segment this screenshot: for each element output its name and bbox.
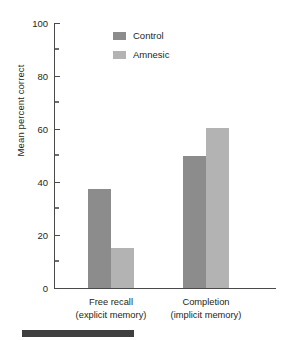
bar-amnesic-group-0 bbox=[111, 248, 134, 288]
y-tick-mark bbox=[55, 76, 60, 77]
y-tick-mark bbox=[55, 129, 60, 130]
bar-control-group-0 bbox=[88, 189, 111, 288]
y-tick-label: 0 bbox=[43, 283, 48, 294]
legend-label-control: Control bbox=[133, 30, 164, 41]
y-axis-line bbox=[54, 23, 55, 288]
x-group-label-1: Completion(implicit memory) bbox=[154, 296, 258, 321]
y-tick-label: 60 bbox=[37, 124, 48, 135]
y-minor-tick-70 bbox=[55, 101, 59, 102]
legend-swatch-amnesic bbox=[113, 51, 126, 59]
x-group-label-line1: Free recall bbox=[89, 297, 133, 307]
legend-item-amnesic: Amnesic bbox=[113, 47, 169, 62]
x-group-label-0: Free recall(explicit memory) bbox=[59, 296, 163, 321]
bar-chart-figure: Mean percent correct 020406080100 Free r… bbox=[0, 0, 282, 340]
legend-label-amnesic: Amnesic bbox=[133, 49, 169, 60]
y-tick-mark bbox=[55, 23, 60, 24]
y-tick-mark bbox=[55, 182, 60, 183]
y-tick-label: 80 bbox=[37, 71, 48, 82]
y-axis-title: Mean percent correct bbox=[15, 41, 26, 181]
x-group-label-line1: Completion bbox=[182, 297, 229, 307]
x-group-label-line2: (explicit memory) bbox=[59, 309, 163, 322]
scan-edge-bar bbox=[22, 330, 134, 337]
y-minor-tick-10 bbox=[55, 260, 59, 261]
bar-control-group-1 bbox=[183, 156, 206, 289]
y-tick-label: 40 bbox=[37, 177, 48, 188]
legend: Control Amnesic bbox=[113, 28, 169, 66]
y-tick-label: 20 bbox=[37, 230, 48, 241]
x-group-label-line2: (implicit memory) bbox=[154, 309, 258, 322]
y-tick-mark bbox=[55, 288, 60, 289]
y-minor-tick-50 bbox=[55, 154, 59, 155]
y-minor-tick-90 bbox=[55, 48, 59, 49]
y-tick-mark bbox=[55, 235, 60, 236]
legend-swatch-control bbox=[113, 32, 126, 40]
y-minor-tick-30 bbox=[55, 207, 59, 208]
legend-item-control: Control bbox=[113, 28, 169, 43]
bar-amnesic-group-1 bbox=[206, 128, 229, 288]
y-tick-label: 100 bbox=[32, 18, 48, 29]
